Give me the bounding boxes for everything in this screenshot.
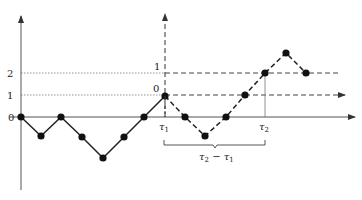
walk-point <box>241 91 248 98</box>
shifted-label-1: 1 <box>154 61 160 72</box>
y-label-2: 2 <box>7 68 13 79</box>
y-label-1: 1 <box>7 90 13 101</box>
walk-point <box>120 133 127 140</box>
walk-point <box>57 113 64 120</box>
brace-label: τ2 − τ1 <box>199 151 234 164</box>
walk-point <box>17 113 24 120</box>
walk-point <box>37 132 44 139</box>
walk-point <box>302 69 309 76</box>
walk-point <box>261 69 268 76</box>
y-label-0: 0 <box>8 112 14 123</box>
walk-point <box>181 113 188 120</box>
random-walk-figure: 2 1 0 1 0 τ1 τ2 τ2 − τ1 <box>0 0 362 200</box>
walk-point <box>201 132 208 139</box>
solid-walk-path <box>21 96 165 158</box>
walk-points <box>17 49 309 161</box>
tau2-label: τ2 <box>259 121 269 134</box>
interval-brace <box>164 140 265 148</box>
walk-point <box>99 154 106 161</box>
dashed-walk-path <box>165 53 306 136</box>
tau1-label: τ1 <box>159 121 169 134</box>
walk-point <box>282 49 289 56</box>
walk-point <box>222 113 229 120</box>
walk-point <box>140 113 147 120</box>
walk-point <box>78 133 85 140</box>
shifted-label-0: 0 <box>153 83 159 94</box>
